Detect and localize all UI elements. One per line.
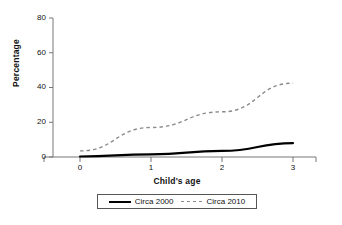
chart-legend: Circa 2000 Circa 2010: [97, 194, 257, 209]
series-line-circa-2000: [80, 143, 293, 156]
legend-swatch-solid-line-icon: [109, 198, 131, 206]
legend-item-circa-2000[interactable]: Circa 2000: [109, 197, 174, 206]
chart-plot-area: [0, 0, 342, 225]
x-tick-label-2: 2: [210, 163, 234, 172]
y-tick-label-20: 20: [26, 117, 46, 126]
y-tick-label-80: 80: [26, 13, 46, 22]
y-axis-title: Percentage: [11, 23, 21, 103]
legend-label-circa-2000: Circa 2000: [135, 197, 174, 206]
x-axis-title: Child's age: [53, 176, 301, 186]
series-line-circa-2010: [80, 83, 293, 151]
legend-label-circa-2010: Circa 2010: [207, 197, 246, 206]
chart-container: Percentage Child's age 80 60 40 20 0 0 1…: [0, 0, 342, 225]
x-tick-label-1: 1: [139, 163, 163, 172]
y-tick-label-0: 0: [26, 152, 46, 161]
x-tick-label-0: 0: [68, 163, 92, 172]
legend-item-circa-2010[interactable]: Circa 2010: [181, 197, 246, 206]
y-tick-label-60: 60: [26, 48, 46, 57]
x-tick-label-3: 3: [281, 163, 305, 172]
legend-swatch-dashed-line-icon: [181, 198, 203, 206]
y-tick-label-40: 40: [26, 82, 46, 91]
